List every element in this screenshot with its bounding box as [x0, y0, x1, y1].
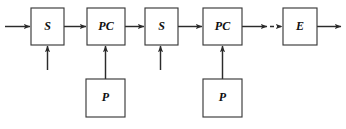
- node-e1-label: E: [295, 19, 304, 33]
- node-s1-label: S: [44, 19, 51, 33]
- node-e1[interactable]: E: [283, 8, 317, 45]
- node-pc2-label: PC: [215, 19, 231, 33]
- node-s1[interactable]: S: [31, 8, 64, 45]
- diagram-svg: S PC S PC E P P: [0, 0, 346, 129]
- node-p2[interactable]: P: [203, 79, 242, 117]
- node-p2-label: P: [219, 90, 227, 104]
- node-s2[interactable]: S: [145, 8, 178, 45]
- node-p1-label: P: [102, 90, 110, 104]
- diagram-canvas: S PC S PC E P P: [0, 0, 346, 129]
- node-s2-label: S: [158, 19, 165, 33]
- node-pc1[interactable]: PC: [87, 8, 125, 45]
- node-p1[interactable]: P: [86, 79, 125, 117]
- node-pc1-label: PC: [98, 19, 114, 33]
- node-pc2[interactable]: PC: [203, 8, 242, 45]
